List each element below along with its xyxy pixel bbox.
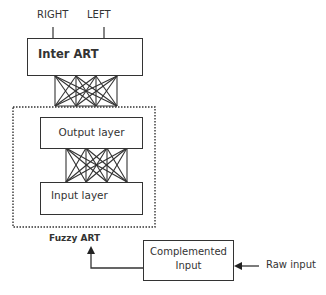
left-label: LEFT [87,9,111,20]
output-layer-label: Output layer [41,126,142,138]
output-layer-box: Output layer [40,117,143,149]
right-label: RIGHT [37,9,68,20]
complemented-line2: Input [144,260,233,271]
input-layer-box: Input layer [40,182,143,215]
inter-connector [55,76,117,106]
arrowhead-up-icon [87,246,95,254]
inter-art-box: Inter ART [27,38,143,76]
arrowhead-left-icon [234,262,242,270]
fuzzy-art-label: Fuzzy ART [49,233,100,243]
fuzzy-connector [66,148,127,182]
input-layer-label: Input layer [51,189,108,201]
complemented-input-box: Complemented Input [143,240,234,281]
to-fuzzy-arrow [91,253,143,268]
inter-art-label: Inter ART [38,47,99,61]
complemented-line1: Complemented [144,246,233,257]
raw-input-label: Raw input [266,259,316,270]
